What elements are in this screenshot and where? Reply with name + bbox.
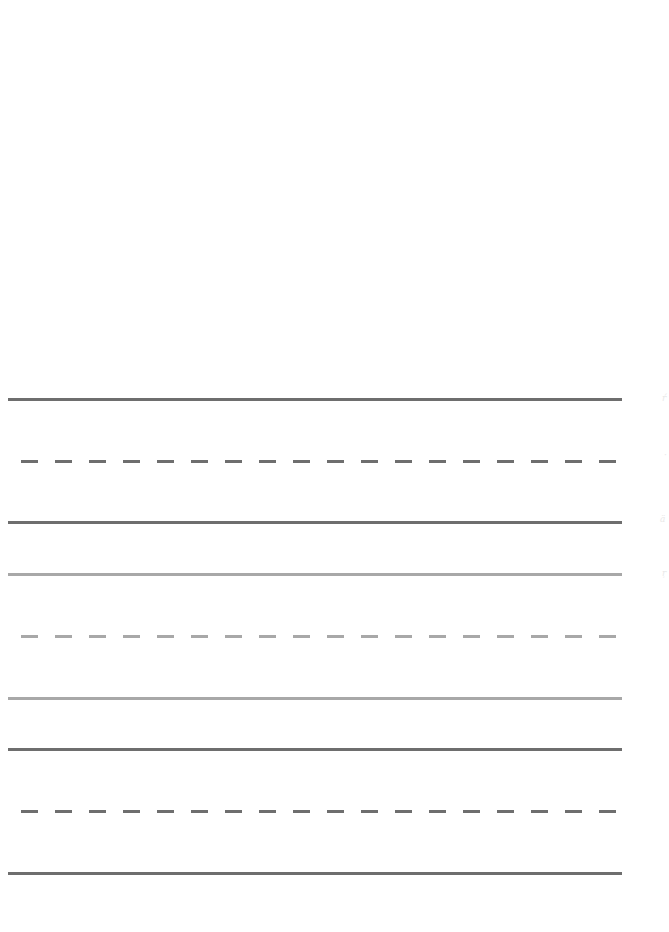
group-1-baseline <box>8 521 622 524</box>
group-3-baseline <box>8 872 622 875</box>
group-2-baseline <box>8 697 622 700</box>
group-1-midline-dashed <box>8 460 622 463</box>
group-1-top-line <box>8 398 622 401</box>
edge-mark: · <box>664 450 667 460</box>
practice-sheet: ŕ · ä ŗ <box>0 0 669 932</box>
edge-mark: ŕ <box>662 393 666 403</box>
edge-mark: ŗ <box>662 568 666 578</box>
group-3-midline-dashed <box>8 810 622 813</box>
group-3-top-line <box>8 748 622 751</box>
group-2-top-line <box>8 573 622 576</box>
blank-writing-area <box>0 0 669 380</box>
edge-mark: ä <box>660 514 665 524</box>
group-2-midline-dashed <box>8 635 622 638</box>
